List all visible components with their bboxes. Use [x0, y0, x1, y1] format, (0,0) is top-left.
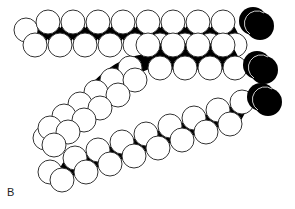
atom — [23, 33, 47, 57]
atom — [161, 33, 185, 57]
atom — [111, 10, 135, 34]
atom — [194, 120, 218, 144]
atom — [146, 136, 170, 160]
atom — [50, 168, 74, 192]
atom — [42, 133, 66, 157]
atom — [211, 10, 235, 34]
atom — [48, 33, 72, 57]
atom — [98, 33, 122, 57]
molecular-chains-diagram — [0, 0, 295, 209]
atom — [161, 10, 185, 34]
atom — [186, 10, 210, 34]
atom — [170, 128, 194, 152]
atom — [198, 56, 222, 80]
head-group — [254, 88, 282, 116]
atom — [98, 152, 122, 176]
atom — [211, 33, 235, 57]
atom — [36, 10, 60, 34]
atom — [148, 56, 172, 80]
atom — [122, 144, 146, 168]
atom — [86, 10, 110, 34]
atom — [74, 160, 98, 184]
atom — [136, 10, 160, 34]
atom — [186, 33, 210, 57]
atom — [218, 112, 242, 136]
panel-label: B — [7, 186, 14, 198]
atom — [173, 56, 197, 80]
head-group — [246, 12, 274, 40]
head-group — [250, 56, 278, 84]
atom — [73, 33, 97, 57]
atom — [136, 33, 160, 57]
atom — [61, 10, 85, 34]
